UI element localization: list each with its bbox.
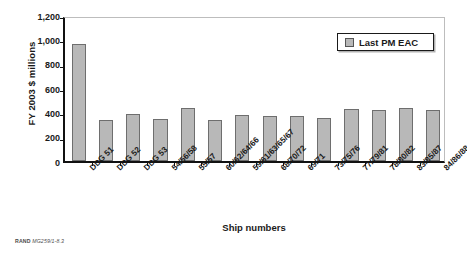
source-note: RAND MG259/1-8.3 [15, 238, 64, 244]
x-tick-label: 55/57 [197, 166, 203, 172]
y-tick-label: 200 [26, 134, 60, 143]
source-id: MG259/1-8.3 [32, 238, 64, 244]
y-tick-label: 0 [26, 159, 60, 168]
bar[interactable] [72, 44, 86, 161]
y-tick-mark [60, 42, 65, 43]
x-tick-label: 69/71 [306, 166, 312, 172]
x-tick-label: 59/61/63/65/67 [251, 166, 257, 172]
x-tick-label: 83/85/87 [415, 166, 421, 172]
x-tick-label: DDG 51 [88, 166, 94, 172]
x-tick-label: DDG 53 [142, 166, 148, 172]
y-tick-label: 400 [26, 110, 60, 119]
y-axis-tick-labels: 02004006008001,0001,200 [24, 0, 60, 255]
y-tick-label: 1,200 [26, 13, 60, 22]
x-tick-label: 54/56/58 [170, 166, 176, 172]
x-axis-title: Ship numbers [63, 222, 445, 233]
x-axis-tick-labels: DDG 51DDG 52DDG 5354/56/5855/5760/62/64/… [63, 166, 445, 228]
chart-legend[interactable]: Last PM EAC [337, 33, 434, 51]
legend-label: Last PM EAC [359, 37, 418, 48]
chart-figure: FY 2003 $ millions 02004006008001,0001,2… [0, 0, 467, 255]
legend-swatch-icon [345, 38, 354, 47]
y-tick-label: 600 [26, 86, 60, 95]
y-tick-mark [60, 91, 65, 92]
x-tick-label: 73/75/76 [333, 166, 339, 172]
x-tick-label: 60/62/64/66 [224, 166, 230, 172]
x-tick-label: 68/70/72 [279, 166, 285, 172]
source-prefix: RAND [15, 238, 31, 244]
x-tick-label: 84/86/88 [442, 166, 448, 172]
y-tick-mark [60, 115, 65, 116]
x-tick-label: DDG 52 [115, 166, 121, 172]
y-tick-mark [60, 140, 65, 141]
y-tick-mark [60, 18, 65, 19]
x-tick-label: 78/80/82 [388, 166, 394, 172]
x-tick-label: 77/79/81 [361, 166, 367, 172]
y-tick-label: 1,000 [26, 37, 60, 46]
y-tick-mark [60, 67, 65, 68]
y-tick-label: 800 [26, 61, 60, 70]
